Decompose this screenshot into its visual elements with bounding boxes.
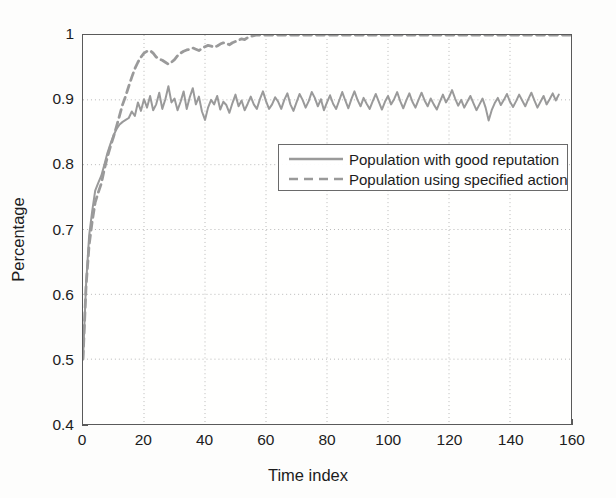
legend-entry-specified-action: Population using specified action [279, 169, 567, 189]
series-lines [83, 35, 571, 424]
x-tick-label: 80 [318, 431, 335, 449]
legend-label-specified-action: Population using specified action [349, 171, 567, 188]
y-tick-label: 0.9 [14, 90, 74, 108]
x-tick-label: 0 [78, 431, 87, 449]
x-tick-label: 40 [196, 431, 213, 449]
y-axis-title: Percentage [9, 160, 28, 320]
y-tick-label: 0.4 [14, 416, 74, 434]
y-tick-mark [82, 425, 88, 426]
x-axis-title: Time index [0, 466, 616, 485]
x-tick-label: 120 [437, 431, 463, 449]
chart-figure: 0.40.50.60.70.80.91 02040608010012014016… [0, 0, 616, 498]
plot-area [82, 34, 572, 425]
y-tick-label: 0.5 [14, 351, 74, 369]
x-tick-label: 160 [559, 431, 585, 449]
series-path-0 [83, 86, 559, 359]
series-path-1 [83, 35, 571, 359]
legend-label-good-reputation: Population with good reputation [349, 151, 559, 168]
chart-legend: Population with good reputation Populati… [278, 144, 568, 191]
legend-swatch-dashed-line-icon [288, 174, 344, 184]
legend-entry-good-reputation: Population with good reputation [279, 149, 567, 169]
y-tick-label: 1 [14, 25, 74, 43]
x-tick-label: 140 [498, 431, 524, 449]
x-tick-mark [572, 419, 573, 425]
legend-swatch-solid-line-icon [288, 154, 344, 164]
x-tick-label: 20 [135, 431, 152, 449]
x-tick-label: 100 [375, 431, 401, 449]
x-tick-label: 60 [257, 431, 274, 449]
